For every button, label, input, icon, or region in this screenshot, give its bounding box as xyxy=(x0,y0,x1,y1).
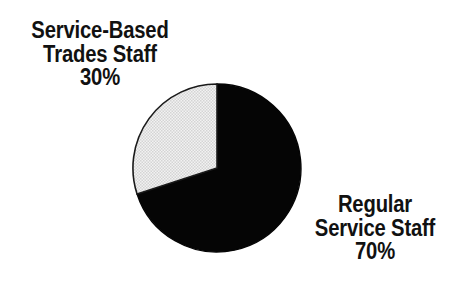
pie-label-left-line2: Trades Staff xyxy=(19,43,181,67)
pie-label-service-based-trades-staff: Service-Based Trades Staff 30% xyxy=(8,19,192,90)
pie-label-right-line1: Regular xyxy=(305,193,444,217)
pie-label-regular-service-staff: Regular Service Staff 70% xyxy=(296,193,454,264)
pie-label-left-percent: 30% xyxy=(19,66,181,90)
pie-chart-plot-area xyxy=(131,82,303,254)
pie-label-right-line2: Service Staff xyxy=(305,217,444,241)
pie-chart-figure: Service-Based Trades Staff 30% Regular S… xyxy=(0,0,461,301)
pie-label-right-percent: 70% xyxy=(305,240,444,264)
pie-chart-svg xyxy=(131,82,303,254)
pie-label-left-line1: Service-Based xyxy=(19,19,181,43)
